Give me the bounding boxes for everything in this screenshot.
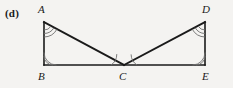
segment-cd xyxy=(124,22,205,65)
vertex-label-b: B xyxy=(38,71,45,82)
part-label-d: (d) xyxy=(5,8,19,19)
angle-arc-e-2 xyxy=(193,53,206,66)
segment-ac xyxy=(44,22,124,65)
vertex-label-a: A xyxy=(38,4,45,15)
geometry-figure: (d) A B C D E xyxy=(0,0,233,88)
angle-arc-d-1 xyxy=(198,26,205,30)
triangle-dec xyxy=(124,22,205,65)
triangle-abc xyxy=(44,22,124,65)
angle-arc-a-1 xyxy=(44,26,51,30)
triangle-diagram-svg xyxy=(0,0,233,88)
angle-mark-e xyxy=(193,53,206,66)
angle-mark-b xyxy=(44,53,57,66)
vertex-label-d: D xyxy=(202,4,210,15)
angle-arc-b-2 xyxy=(44,53,57,66)
vertex-label-c: C xyxy=(119,71,126,82)
vertex-label-e: E xyxy=(202,71,209,82)
